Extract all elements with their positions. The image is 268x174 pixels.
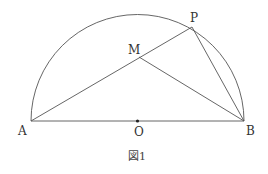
label-O: O bbox=[134, 125, 144, 139]
label-P: P bbox=[190, 11, 198, 25]
label-M: M bbox=[128, 43, 140, 57]
geometry-figure: A B O P M 図1 bbox=[0, 0, 268, 174]
label-B: B bbox=[246, 124, 255, 138]
segment-PB bbox=[192, 27, 244, 121]
segment-AP bbox=[31, 27, 192, 121]
segment-MB bbox=[139, 57, 244, 121]
center-point-O bbox=[136, 119, 139, 122]
semicircle-arc bbox=[31, 15, 244, 122]
figure-caption: 図1 bbox=[128, 150, 146, 163]
label-A: A bbox=[17, 124, 27, 138]
